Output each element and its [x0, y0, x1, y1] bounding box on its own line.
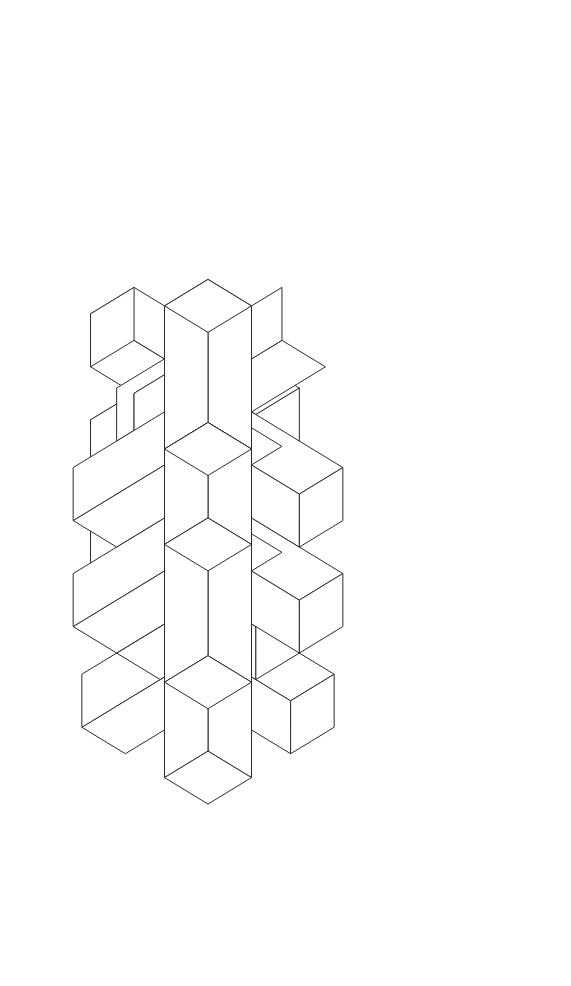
artboard: [0, 0, 571, 986]
beam-group: [73, 279, 343, 804]
beam-v-right-mid: [165, 518, 252, 709]
isometric-beam-drawing: [0, 0, 571, 986]
